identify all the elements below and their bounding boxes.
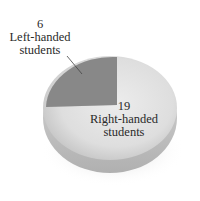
left-handed-text-2: students	[6, 44, 74, 57]
left-handed-label: 6 Left-handed students	[6, 18, 74, 57]
right-handed-text-2: students	[88, 126, 160, 139]
right-handed-label: 19 Right-handed students	[88, 100, 160, 139]
